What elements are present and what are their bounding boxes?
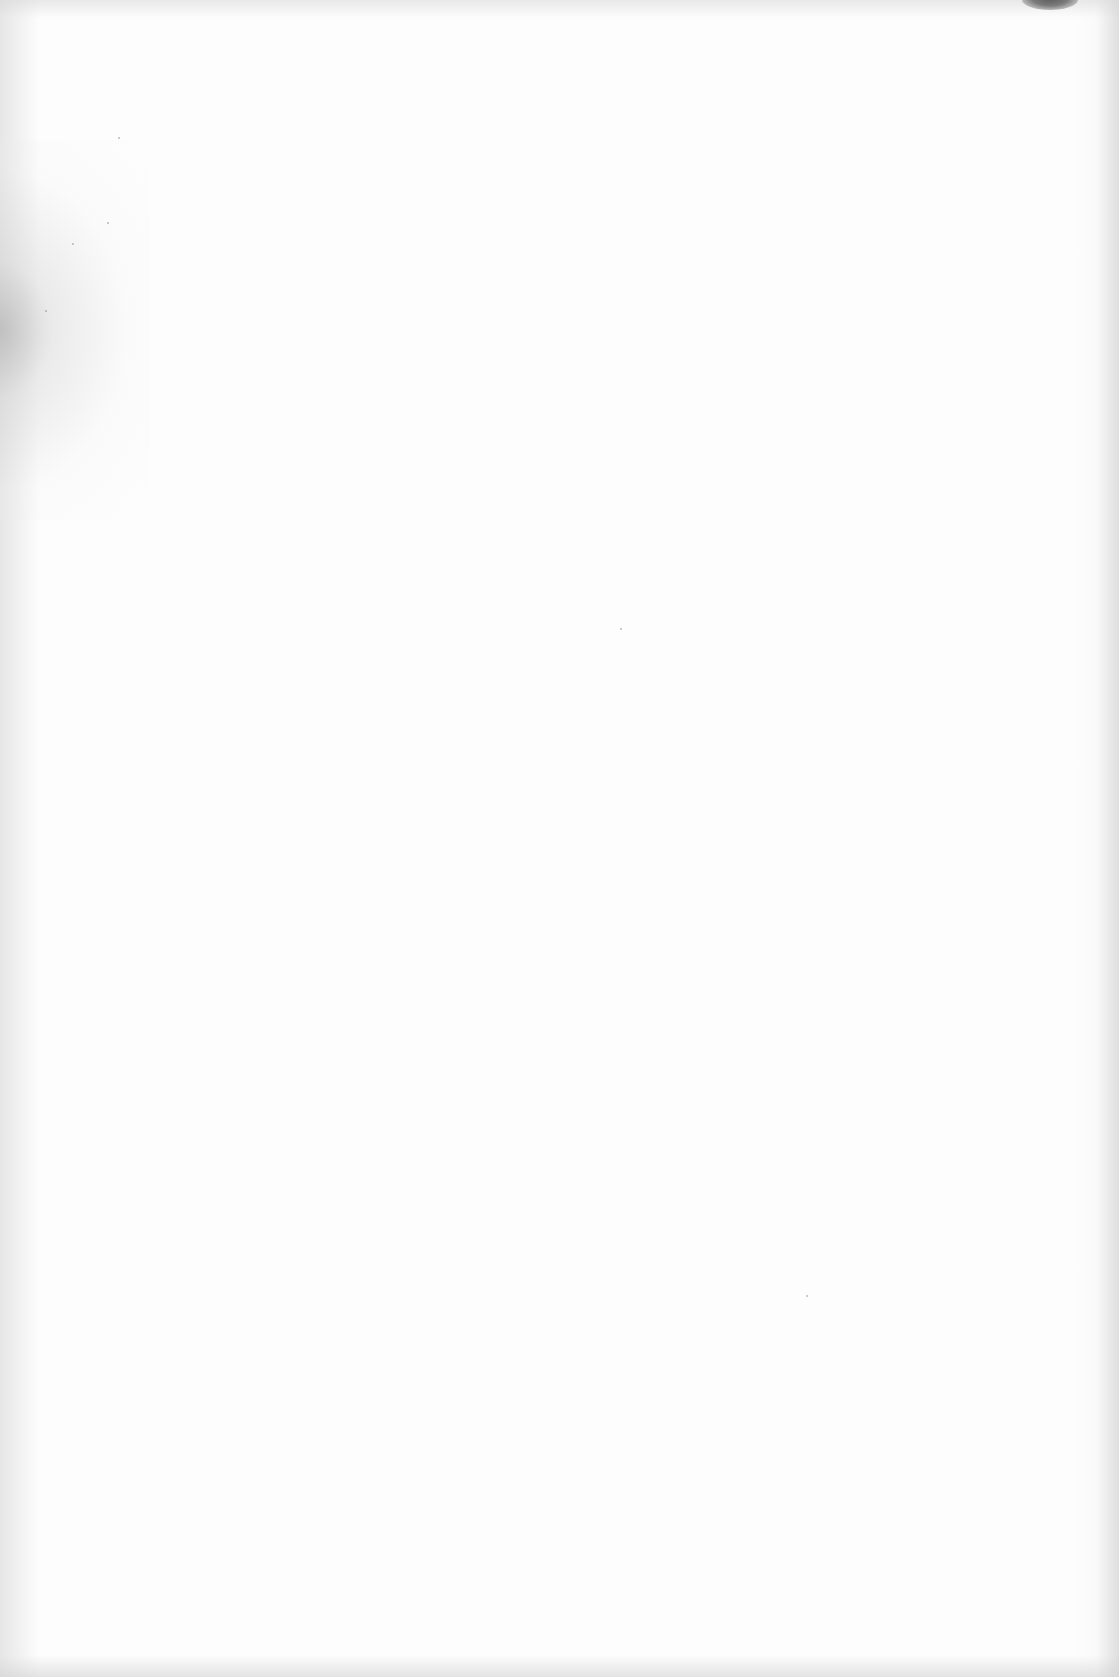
speck: [45, 310, 47, 312]
top-edge-shadow: [0, 0, 1119, 18]
bottom-edge-shadow: [0, 1655, 1119, 1677]
speck: [72, 243, 74, 245]
scanned-blank-page: [0, 0, 1119, 1677]
page-body: [80, 80, 1039, 1597]
right-edge-shadow: [1074, 0, 1119, 1677]
